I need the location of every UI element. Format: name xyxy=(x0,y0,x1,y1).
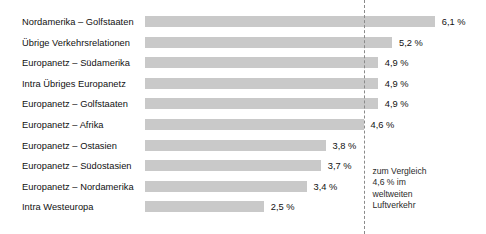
category-label: Übrige Verkehrsrelationen xyxy=(22,33,130,53)
annotation-line: 4,6 % im xyxy=(373,177,427,188)
value-label: 6,1 % xyxy=(442,12,466,32)
category-label: Intra Übriges Europanetz xyxy=(22,74,126,94)
horizontal-bar-chart: Nordamerika – Golfstaaten6,1 %Übrige Ver… xyxy=(0,0,486,234)
value-label: 5,2 % xyxy=(399,33,423,53)
reference-line-annotation: zum Vergleich4,6 % imweltweitenLuftverke… xyxy=(373,166,427,212)
value-label: 3,8 % xyxy=(333,136,357,156)
value-label: 3,7 % xyxy=(328,156,352,176)
category-label: Europanetz – Nordamerika xyxy=(22,177,134,197)
value-label: 4,9 % xyxy=(385,74,409,94)
chart-row: Europanetz – Golfstaaten4,9 % xyxy=(0,94,486,114)
annotation-line: Luftverkehr xyxy=(373,200,427,211)
value-label: 4,6 % xyxy=(371,115,395,135)
bar xyxy=(145,201,264,212)
bar xyxy=(145,181,307,192)
value-label: 3,4 % xyxy=(314,177,338,197)
category-label: Europanetz – Südostasien xyxy=(22,156,132,176)
bar xyxy=(145,57,378,68)
chart-row: Europanetz – Afrika4,6 % xyxy=(0,115,486,135)
bar xyxy=(145,140,326,151)
chart-row: Europanetz – Südamerika4,9 % xyxy=(0,53,486,73)
bar xyxy=(145,37,392,48)
annotation-line: zum Vergleich xyxy=(373,166,427,177)
category-label: Europanetz – Golfstaaten xyxy=(22,94,128,114)
bar xyxy=(145,78,378,89)
category-label: Nordamerika – Golfstaaten xyxy=(22,12,134,32)
annotation-line: weltweiten xyxy=(373,189,427,200)
bar xyxy=(145,160,321,171)
reference-line xyxy=(364,0,365,234)
category-label: Europanetz – Afrika xyxy=(22,115,104,135)
bar xyxy=(145,98,378,109)
value-label: 4,9 % xyxy=(385,94,409,114)
bar xyxy=(145,16,435,27)
value-label: 4,9 % xyxy=(385,53,409,73)
category-label: Europanetz – Südamerika xyxy=(22,53,130,73)
category-label: Europanetz – Ostasien xyxy=(22,136,117,156)
value-label: 2,5 % xyxy=(271,197,295,217)
chart-row: Europanetz – Ostasien3,8 % xyxy=(0,136,486,156)
bar xyxy=(145,119,364,130)
chart-row: Intra Übriges Europanetz4,9 % xyxy=(0,74,486,94)
category-label: Intra Westeuropa xyxy=(22,197,93,217)
chart-row: Übrige Verkehrsrelationen5,2 % xyxy=(0,33,486,53)
chart-row: Nordamerika – Golfstaaten6,1 % xyxy=(0,12,486,32)
